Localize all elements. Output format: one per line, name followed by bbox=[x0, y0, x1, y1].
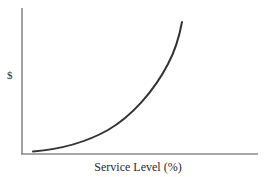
y-axis-label: $ bbox=[7, 70, 13, 81]
x-axis-label: Service Level (%) bbox=[0, 161, 264, 173]
cost-curve-series bbox=[33, 22, 182, 152]
chart-canvas: $ Service Level (%) bbox=[0, 0, 264, 177]
plot-area bbox=[0, 0, 264, 177]
